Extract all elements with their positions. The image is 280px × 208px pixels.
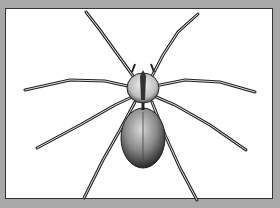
- spider-legs: [25, 12, 255, 200]
- picture-frame: [0, 0, 280, 208]
- spider-illustration: [0, 0, 280, 208]
- spider-body: [121, 64, 165, 168]
